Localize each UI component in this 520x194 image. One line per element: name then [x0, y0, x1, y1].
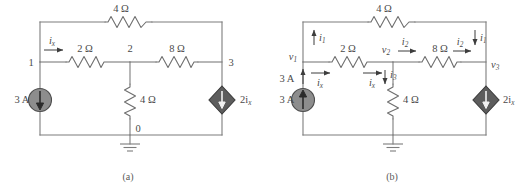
a-left-resistor-label: 2 Ω [77, 43, 93, 54]
a-ix-current-arrow: ix [44, 35, 63, 50]
b-right-resistor-label: 8 Ω [432, 43, 448, 54]
caption-b: (b) [386, 171, 398, 183]
a-current-source-3a: 3 A [15, 62, 52, 135]
b-i3-arrow: i3 [385, 69, 397, 84]
a-source-label: 3 A [15, 94, 30, 105]
b-dependent-source-label: 2ix [503, 94, 515, 107]
b-i2-mid-label: i2 [402, 36, 409, 49]
a-node-3-label: 3 [228, 57, 233, 68]
b-node-v1-label: v1 [289, 51, 297, 64]
circuit-a: 4 Ω 2 Ω 8 Ω ix 1 2 3 [15, 3, 253, 183]
b-ix-mid-label: ix [369, 77, 376, 90]
a-top-resistor-label: 4 Ω [113, 3, 129, 14]
a-node-1-label: 1 [28, 57, 33, 68]
a-ground-symbol [120, 135, 140, 151]
caption-a: (a) [122, 171, 133, 183]
b-i1-left-label: i1 [319, 32, 326, 45]
a-dependent-source: 2ix [209, 22, 252, 135]
b-shunt-resistor-label: 4 Ω [403, 94, 419, 105]
b-top-branch: 4 Ω [303, 3, 486, 62]
b-i2-right-arrow: i2 [453, 36, 471, 51]
b-source-label: 3 A [280, 94, 295, 105]
a-shunt-resistor-label: 4 Ω [140, 94, 156, 105]
b-node-v2-label: v2 [382, 44, 391, 57]
b-ground-symbol [383, 135, 403, 151]
b-ix-left-arrow: ix [311, 73, 330, 90]
b-node-v3-label: v3 [491, 59, 500, 72]
b-source-branch-label: 3 A [280, 73, 295, 84]
a-node-2-label: 2 [127, 43, 132, 54]
a-ix-label: ix [49, 35, 56, 48]
a-node-0-label: 0 [135, 123, 140, 134]
circuit-b: 4 Ω i1 i1 [280, 3, 516, 183]
b-i2-mid-arrow: i2 [398, 36, 416, 51]
b-left-resistor-label: 2 Ω [340, 43, 356, 54]
circuit-diagram-svg: 4 Ω 2 Ω 8 Ω ix 1 2 3 [0, 0, 520, 194]
a-right-resistor-label: 8 Ω [169, 43, 185, 54]
a-dependent-source-label: 2ix [240, 94, 252, 107]
b-i2-right-label: i2 [457, 36, 464, 49]
b-source-branch-arrow: 3 A [280, 69, 303, 84]
figure-root: 4 Ω 2 Ω 8 Ω ix 1 2 3 [0, 0, 520, 194]
b-i1-right-arrow: i1 [475, 30, 487, 45]
b-ix-left-label: ix [317, 77, 324, 90]
b-i1-left-arrow: i1 [314, 30, 326, 45]
b-top-resistor-label: 4 Ω [376, 3, 392, 14]
b-ix-mid-arrow: ix [363, 73, 382, 90]
